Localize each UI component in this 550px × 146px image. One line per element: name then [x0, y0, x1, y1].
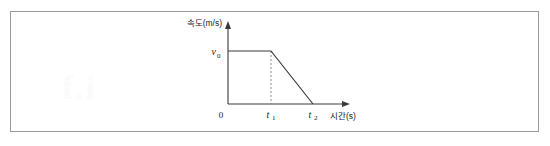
t2-label: t: [309, 109, 312, 120]
t2-subscript: 2: [314, 114, 318, 122]
v0-subscript: 0: [217, 52, 221, 60]
y-axis-label: 속도(m/s): [187, 18, 223, 28]
graph-svg: 속도(m/s) 시간(s) v 0 0 t 1 t 2: [180, 14, 380, 132]
y-axis: [225, 21, 231, 104]
v0-label: v: [212, 46, 217, 57]
x-axis-label: 시간(s): [330, 111, 356, 121]
y-tick-v0: v 0: [212, 46, 221, 60]
velocity-time-graph: 속도(m/s) 시간(s) v 0 0 t 1 t 2: [180, 14, 380, 132]
x-tick-t1: t 1: [267, 109, 276, 122]
t1-label: t: [267, 109, 270, 120]
screenshot-canvas: f.i 속도(m/s) 시간(s) v 0: [0, 0, 550, 146]
x-tick-t2: t 2: [309, 109, 318, 122]
x-axis: [228, 101, 350, 107]
y-axis-arrow-icon: [225, 21, 231, 29]
t1-subscript: 1: [272, 114, 276, 122]
x-axis-arrow-icon: [342, 101, 350, 107]
origin-label: 0: [219, 110, 224, 120]
